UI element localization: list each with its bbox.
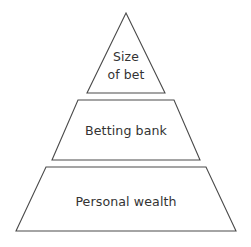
pyramid-tier-top-label-line1: Size [113,49,139,64]
tier-middle-label-text: Betting bank [85,123,168,138]
pyramid-tier-bottom-label: Personal wealth [75,194,176,209]
pyramid-tier-top-label-line2: of bet [108,67,145,82]
tier-top-label-text-line2: of bet [108,67,145,82]
pyramid-svg-canvas: Size of bet Betting bank Personal wealth [0,0,251,247]
pyramid-tier-middle: Betting bank [52,100,200,160]
pyramid-tier-bottom: Personal wealth [16,167,236,231]
tier-top-label-text-line1: Size [113,49,139,64]
pyramid-diagram: Size of bet Betting bank Personal wealth [0,0,251,247]
tier-bottom-label-text: Personal wealth [75,194,176,209]
pyramid-tier-middle-label: Betting bank [85,123,168,138]
pyramid-tier-top: Size of bet [87,13,165,93]
